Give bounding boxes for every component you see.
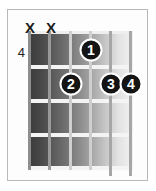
string-extension-5 [109, 31, 112, 176]
string-line-1 [28, 31, 31, 170]
string-line-3 [69, 31, 72, 170]
base-fret-number: 4 [9, 45, 25, 60]
finger-dot-2: 2 [60, 73, 83, 96]
fret-wire-4 [28, 166, 133, 170]
fret-wire-2 [28, 99, 133, 103]
fret-wire-1 [28, 65, 133, 69]
fret-wire-3 [28, 133, 133, 137]
string-extension-6 [129, 31, 132, 176]
finger-dot-4: 4 [120, 73, 143, 96]
string-line-2 [48, 31, 51, 170]
finger-dot-1: 1 [80, 39, 103, 62]
chord-diagram: X X 4 1 2 3 4 [0, 0, 156, 191]
fret-wire-nut [28, 31, 133, 34]
page-bottom-edge [0, 185, 156, 191]
